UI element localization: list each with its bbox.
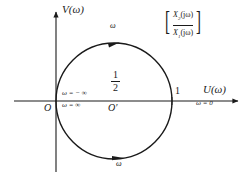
bracket-left-icon: [ bbox=[165, 8, 170, 42]
omega-positive-infinity-label: ω = ∞ bbox=[62, 102, 80, 109]
circle-center-label: O′ bbox=[108, 103, 117, 113]
transfer-function-fraction: X2(jω) X1(jω) bbox=[172, 8, 194, 42]
bracket-right-icon: ] bbox=[196, 8, 201, 42]
transfer-function-bar bbox=[173, 25, 193, 26]
origin-label: O bbox=[44, 103, 51, 113]
radius-fraction-numerator: 1 bbox=[111, 70, 120, 80]
transfer-function-ratio: [ X2(jω) X1(jω) ] bbox=[163, 8, 203, 42]
omega-top-arc-label: ω bbox=[110, 22, 116, 30]
omega-negative-infinity-label: ω = − ∞ bbox=[62, 90, 87, 97]
transfer-function-denominator: X1(jω) bbox=[173, 27, 193, 42]
omega-bottom-arc-label: ω bbox=[116, 160, 122, 168]
omega-zero-label: ω = 0 bbox=[196, 100, 213, 107]
numerator-argument: (jω) bbox=[180, 10, 193, 19]
figure-canvas: V(ω) U(ω) O O′ ω = − ∞ ω = ∞ ω = 0 1 ω ω… bbox=[0, 0, 244, 183]
u-axis-label: U(ω) bbox=[203, 84, 226, 95]
v-axis-label: V(ω) bbox=[62, 4, 84, 15]
radius-fraction-denominator: 2 bbox=[111, 83, 120, 93]
u-axis-tick-one-label: 1 bbox=[175, 86, 180, 96]
transfer-function-numerator: X2(jω) bbox=[173, 9, 193, 24]
denominator-argument: (jω) bbox=[180, 28, 193, 37]
radius-fraction: 1 2 bbox=[111, 70, 120, 93]
